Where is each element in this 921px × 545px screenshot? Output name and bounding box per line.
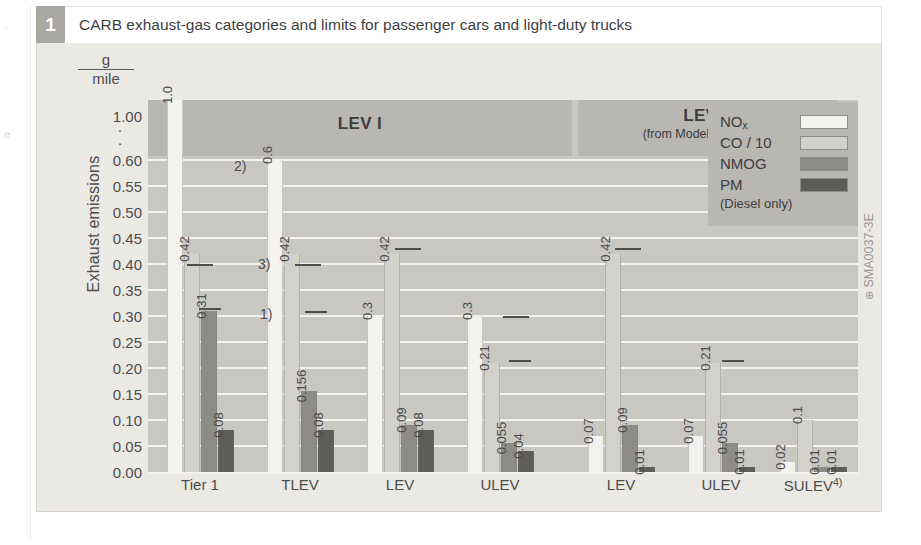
bar-co: 0.21 — [484, 363, 500, 472]
bar-cap-tick — [503, 316, 529, 318]
x-axis-tick-labels: Tier 1TLEVLEVULEVLEVULEVSULEV4) — [148, 476, 858, 502]
bar-nox: 0.02 — [780, 462, 796, 472]
y-tick-label: 0.60 — [70, 152, 142, 169]
bar-cap-tick — [509, 360, 531, 362]
bar-nox: 1.0 — [167, 100, 183, 472]
bar-value-label: 0.1 — [790, 406, 805, 424]
figure-page: · e 1 CARB exhaust-gas categories and li… — [0, 0, 921, 545]
y-tick-label: 0.00 — [70, 464, 142, 481]
y-unit-numerator: g — [78, 52, 134, 69]
y-tick-label: 0.30 — [70, 308, 142, 325]
y-tick-label: 0.55 — [70, 178, 142, 195]
bar-co: 0.42 — [184, 254, 200, 472]
bar-value-label: 0.42 — [377, 236, 392, 261]
bar-cap-tick — [722, 360, 744, 362]
bar-group: 0.30.420.090.08 — [367, 100, 434, 472]
plot-area: LEV ILEV II(from Model Year 2004)NOxCO /… — [148, 100, 858, 472]
bar-value-label: 0.01 — [632, 449, 647, 474]
bar-value-label: 0.04 — [511, 434, 526, 459]
figure-id-label: ⊕ SMA0037-3E — [862, 130, 876, 300]
bar-value-label: 0.21 — [698, 345, 713, 370]
bar-value-label: 0.07 — [681, 418, 696, 443]
bar-co: 0.42 — [384, 254, 400, 472]
bar-value-label: 0.01 — [732, 449, 747, 474]
bar-value-label: 0.02 — [773, 444, 788, 469]
bar-cap-tick — [395, 248, 421, 250]
y-tick-label: 0.45 — [70, 230, 142, 247]
bar-pm: 0.01 — [831, 467, 847, 472]
bar-value-label: 0.01 — [807, 449, 822, 474]
bar-value-label: 0.42 — [177, 236, 192, 261]
figure-id-mark: ⊕ — [863, 291, 875, 300]
bar-group: 0.30.210.0550.04 — [467, 100, 534, 472]
bar-value-label: 0.42 — [598, 236, 613, 261]
bar-value-label: 0.055 — [715, 422, 730, 455]
bar-cap-tick — [199, 308, 221, 310]
x-tick-label: ULEV — [701, 476, 740, 493]
y-tick-label: 1.00 — [70, 108, 142, 125]
bar-nox: 0.3 — [367, 316, 383, 472]
bar-nox: 0.3 — [467, 316, 483, 472]
bar-value-label: 0.3 — [460, 302, 475, 320]
bar-value-label: 0.156 — [294, 370, 309, 403]
bar-group: 0.60.420.1560.08 — [267, 100, 334, 472]
bar-group: 0.070.210.0550.01 — [688, 100, 755, 472]
bar-group: 0.070.420.090.01 — [588, 100, 655, 472]
figure-caption-bar: 1 CARB exhaust-gas categories and limits… — [36, 6, 882, 43]
figure-caption-text: CARB exhaust-gas categories and limits f… — [65, 6, 882, 43]
bar-value-label: 0.01 — [824, 449, 839, 474]
bar-value-label: 0.08 — [211, 413, 226, 438]
y-axis-break-marker: · — [110, 137, 130, 149]
x-tick-label: LEV — [607, 476, 635, 493]
bar-value-label: 0.21 — [477, 345, 492, 370]
y-tick-label: 0.40 — [70, 256, 142, 273]
figure-number: 1 — [36, 6, 65, 43]
bar-value-label: 0.08 — [311, 413, 326, 438]
bar-pm: 0.01 — [739, 467, 755, 472]
bar-pm: 0.08 — [218, 430, 234, 472]
bar-value-label: 0.3 — [360, 302, 375, 320]
bar-value-label: 0.09 — [394, 408, 409, 433]
bar-nmog: 0.31 — [201, 311, 217, 472]
bar-group: 1.00.420.310.08 — [167, 100, 234, 472]
y-tick-label: 0.25 — [70, 334, 142, 351]
bar-cap-tick — [615, 248, 641, 250]
axis-baseline — [148, 472, 858, 474]
bar-co: 0.42 — [605, 254, 621, 472]
footnote-marker: 1) — [260, 306, 272, 322]
bar-co: 0.42 — [284, 254, 300, 472]
x-tick-label: ULEV — [480, 476, 519, 493]
bar-pm: 0.04 — [518, 451, 534, 472]
bar-value-label: 0.07 — [581, 418, 596, 443]
x-tick-label: Tier 1 — [181, 476, 219, 493]
y-axis-unit: g mile — [78, 52, 134, 88]
bar-cap-tick — [295, 264, 321, 266]
footnote-marker: 2) — [234, 158, 246, 174]
bar-value-label: 0.31 — [194, 293, 209, 318]
bar-pm: 0.01 — [639, 467, 655, 472]
y-tick-label: 0.50 — [70, 204, 142, 221]
bar-cap-tick — [305, 311, 327, 313]
x-tick-label: LEV — [386, 476, 414, 493]
x-tick-label: TLEV — [281, 476, 319, 493]
bar-pm: 0.08 — [418, 430, 434, 472]
bar-pm: 0.08 — [318, 430, 334, 472]
bar-value-label: 0.6 — [260, 146, 275, 164]
page-edge-rule — [30, 6, 31, 540]
page-edge-fragment-mid: e — [4, 128, 10, 140]
y-axis-tick-labels: 1.000.600.550.500.450.400.350.300.250.20… — [62, 100, 142, 472]
bar-value-label: 0.42 — [277, 236, 292, 261]
x-tick-footnote: 4) — [833, 476, 842, 488]
bar-nox: 0.07 — [688, 436, 704, 472]
bar-value-label: 0.09 — [615, 408, 630, 433]
footnote-marker: 3) — [258, 256, 270, 272]
bar-co: 0.21 — [705, 363, 721, 472]
bar-value-label: 0.055 — [494, 422, 509, 455]
page-edge-fragment-top: · — [4, 22, 8, 34]
y-tick-label: 0.20 — [70, 360, 142, 377]
bar-value-label: 0.08 — [411, 413, 426, 438]
bar-nox: 0.07 — [588, 436, 604, 472]
bar-value-label: 1.0 — [160, 86, 175, 104]
y-tick-label: 0.15 — [70, 386, 142, 403]
bar-cap-tick — [187, 264, 213, 266]
